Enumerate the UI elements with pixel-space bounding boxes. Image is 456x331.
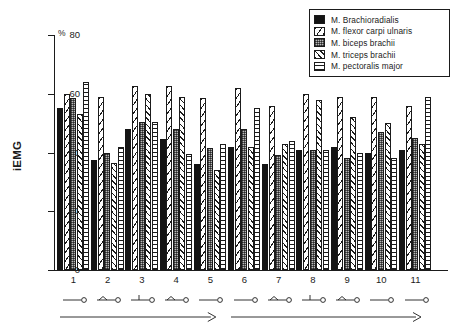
legend-label: M. Brachioradialis: [331, 15, 399, 25]
bar: [160, 139, 166, 270]
bar: [350, 117, 356, 270]
bar: [98, 97, 104, 270]
bar: [406, 106, 412, 271]
x-axis-tick-label: 10: [369, 274, 393, 285]
bar: [357, 153, 363, 271]
bar: [248, 147, 254, 270]
x-axis-tick-label: 3: [130, 274, 154, 285]
bar: [337, 97, 343, 270]
x-axis-tick-label: 11: [404, 274, 428, 285]
bar-group: [91, 35, 124, 270]
bar: [391, 158, 397, 270]
legend-swatch-dense-diagonal-hatch: [314, 50, 325, 59]
bar: [371, 97, 377, 270]
bar: [207, 148, 213, 270]
lever-horizontal-circle-icon: [230, 292, 260, 306]
legend-item: M. pectoralis major: [314, 60, 445, 72]
bar-group: [125, 35, 158, 270]
lever-tee-circle-icon: [127, 292, 157, 306]
x-axis-tick-label: 6: [233, 274, 257, 285]
bar: [275, 155, 281, 270]
x-axis-tick-label: 2: [96, 274, 120, 285]
y-axis-title: iEMG: [11, 126, 23, 186]
bar: [166, 86, 172, 270]
legend-item: M. flexor carpi ulnaris: [314, 26, 445, 38]
bar: [344, 158, 350, 270]
lever-horizontal-circle-icon: [59, 292, 89, 306]
bar: [254, 108, 260, 270]
progression-arrow: [231, 310, 422, 322]
legend-swatch-solid-black: [314, 15, 325, 24]
bar: [228, 147, 234, 270]
bar: [125, 129, 131, 270]
bar: [220, 144, 226, 270]
legend-label: M. triceps brachii: [331, 50, 396, 60]
bar: [282, 144, 288, 270]
bar: [419, 144, 425, 270]
bar: [57, 108, 63, 270]
bar: [214, 170, 220, 270]
legend-item: M. triceps brachii: [314, 49, 445, 61]
legend-item: M. Brachioradialis: [314, 14, 445, 26]
bar: [64, 94, 70, 270]
chart-figure: % iEMG 020406080 1234567891011 M. Brachi…: [0, 0, 456, 331]
bar: [104, 153, 110, 271]
bar: [289, 141, 295, 270]
lever-peak-circle-icon: [332, 292, 362, 306]
bar-group: [194, 35, 227, 270]
lever-peak-circle-icon: [93, 292, 123, 306]
progression-arrow: [60, 310, 217, 322]
bar: [235, 88, 241, 270]
legend-swatch-stipple-grey: [314, 38, 325, 47]
bar: [139, 122, 145, 270]
bar: [303, 94, 309, 270]
bar: [118, 147, 124, 270]
bar: [412, 138, 418, 270]
bar-group: [262, 35, 295, 270]
legend-swatch-horizontal-hatch: [314, 62, 325, 71]
bar: [173, 129, 179, 270]
x-axis-line: [54, 270, 448, 271]
bar: [323, 150, 329, 270]
bar: [425, 97, 431, 270]
lever-horizontal-circle-icon: [195, 292, 225, 306]
x-axis-tick-label: 7: [267, 274, 291, 285]
lever-horizontal-circle-icon: [401, 292, 431, 306]
bar-group: [57, 35, 90, 270]
legend-swatch-sparse-diagonal-hatch: [314, 27, 325, 36]
bar: [200, 98, 206, 270]
bar: [194, 164, 200, 270]
x-axis-tick-label: 1: [62, 274, 86, 285]
lever-peak-circle-icon: [161, 292, 191, 306]
lever-horizontal-circle-icon: [366, 292, 396, 306]
bar: [365, 153, 371, 271]
bar: [70, 98, 76, 270]
bar: [262, 164, 268, 270]
bar: [179, 97, 185, 270]
bar: [378, 132, 384, 270]
bar: [83, 82, 89, 270]
x-axis-tick-label: 8: [301, 274, 325, 285]
bar: [310, 150, 316, 270]
legend-label: M. biceps brachii: [331, 38, 395, 48]
bar: [91, 160, 97, 270]
bar: [111, 163, 117, 270]
bar: [152, 122, 158, 270]
bar: [316, 100, 322, 270]
legend-label: M. flexor carpi ulnaris: [331, 26, 412, 36]
bar: [331, 147, 337, 270]
bar-group: [160, 35, 193, 270]
bar: [269, 106, 275, 271]
lever-tee-circle-icon: [298, 292, 328, 306]
bar: [186, 154, 192, 270]
bar: [296, 150, 302, 270]
bar: [385, 123, 391, 270]
x-axis-tick-label: 9: [335, 274, 359, 285]
legend-label: M. pectoralis major: [331, 61, 403, 71]
bar: [241, 129, 247, 270]
bar: [132, 86, 138, 270]
x-axis-tick-label: 4: [164, 274, 188, 285]
bar-group: [228, 35, 261, 270]
lever-peak-circle-icon: [264, 292, 294, 306]
legend-item: M. biceps brachii: [314, 37, 445, 49]
